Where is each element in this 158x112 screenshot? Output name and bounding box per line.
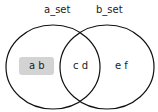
intersection-items: c d xyxy=(73,60,88,71)
b-set-label: b_set xyxy=(96,4,123,15)
b-only-items: e f xyxy=(115,60,128,71)
a-set-label: a_set xyxy=(44,4,70,15)
venn-circles xyxy=(0,0,158,112)
a-only-items: a b xyxy=(29,60,45,71)
